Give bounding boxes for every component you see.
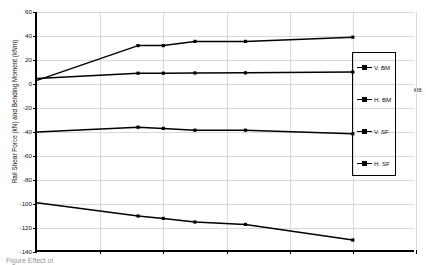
- figure-caption: Figure Effect of: [6, 257, 53, 265]
- legend-item-h-sf[interactable]: H. SF: [357, 157, 390, 169]
- legend-item-label: H. BM: [374, 96, 391, 103]
- x-axis-tick: [416, 250, 417, 254]
- legend-marker-icon: [357, 159, 372, 168]
- legend-marker-icon: [357, 63, 372, 72]
- gridline-vertical: [416, 12, 417, 250]
- data-point-marker: [351, 238, 354, 241]
- data-point-marker: [162, 44, 165, 47]
- y-axis-tick-label: -80: [4, 177, 32, 183]
- y-axis-tick-label: -100: [4, 201, 32, 207]
- y-axis-tick-label: 20: [4, 57, 32, 63]
- data-point-marker: [162, 217, 165, 220]
- legend-marker-icon: [357, 95, 372, 104]
- legend-marker-icon: [357, 127, 372, 136]
- data-point-marker: [244, 223, 247, 226]
- y-axis-tick-label: 0: [4, 81, 32, 87]
- series-v-sf: [37, 126, 354, 136]
- y-axis-tick-label: -120: [4, 225, 32, 231]
- legend-item-label: V. SF: [374, 128, 389, 135]
- data-point-marker: [193, 220, 196, 223]
- data-point-marker: [136, 126, 139, 129]
- data-point-marker: [193, 40, 196, 43]
- data-point-marker: [244, 129, 247, 132]
- legend-item-label: V. BM: [374, 64, 390, 71]
- y-axis-tick-label: -20: [4, 105, 32, 111]
- data-point-marker: [193, 129, 196, 132]
- data-point-marker: [136, 214, 139, 217]
- legend-item-v-sf[interactable]: V. SF: [357, 125, 389, 137]
- y-axis-tick-label: 60: [4, 9, 32, 15]
- series-h-sf: [37, 203, 354, 242]
- legend: V. BMH. BMV. SFH. SF: [352, 52, 396, 176]
- series-h-bm: [37, 70, 354, 78]
- legend-item-label: H. SF: [374, 160, 390, 167]
- data-point-marker: [136, 72, 139, 75]
- data-point-marker: [162, 127, 165, 130]
- legend-item-v-bm[interactable]: V. BM: [357, 61, 390, 73]
- y-axis-tick-label: 40: [4, 33, 32, 39]
- y-axis-tick-label: -40: [4, 129, 32, 135]
- data-point-marker: [244, 71, 247, 74]
- data-point-marker: [193, 71, 196, 74]
- y-axis-tick-label: -60: [4, 153, 32, 159]
- data-point-marker: [136, 44, 139, 47]
- data-point-marker: [244, 40, 247, 43]
- data-point-marker: [162, 72, 165, 75]
- y-axis-tick: [33, 252, 37, 253]
- y-axis-tick-label: -140: [4, 249, 32, 255]
- data-point-marker: [351, 36, 354, 39]
- legend-item-h-bm[interactable]: H. BM: [357, 93, 391, 105]
